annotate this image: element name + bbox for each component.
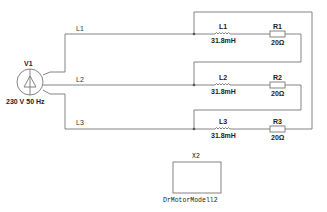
- wire-return-top: [194, 12, 312, 129]
- inductor-l1-icon[interactable]: [215, 33, 230, 35]
- resistor-r3-value: 20Ω: [271, 134, 285, 141]
- wire-l1: [43, 34, 194, 75]
- line-label-l1: L1: [76, 25, 84, 32]
- inductor-l1-name: L1: [219, 23, 227, 30]
- resistor-r1-value: 20Ω: [271, 39, 285, 46]
- junction-dot-l2: [193, 84, 196, 87]
- resistor-r1-icon[interactable]: [270, 31, 285, 37]
- inductor-l2-icon[interactable]: [215, 84, 230, 86]
- inductor-l3-name: L3: [219, 118, 227, 125]
- line-label-l3: L3: [76, 119, 84, 126]
- resistor-r2-name: R2: [273, 74, 282, 81]
- resistor-r2-value: 20Ω: [271, 90, 285, 97]
- component-name-label: X2: [192, 153, 200, 160]
- resistor-r1-name: R1: [273, 23, 282, 30]
- resistor-r3-name: R3: [273, 118, 282, 125]
- junction-dot-l1: [193, 33, 196, 36]
- resistor-r3-icon[interactable]: [270, 126, 285, 132]
- resistor-r2-icon[interactable]: [270, 82, 285, 88]
- wire-l3: [43, 90, 194, 129]
- circuit-canvas: V1 230 V 50 Hz L1 L2 L3 L1 31.8mH R1 20Ω…: [0, 0, 327, 212]
- inductor-l2-value: 31.8mH: [211, 88, 236, 95]
- source-rating-label: 230 V 50 Hz: [6, 98, 45, 105]
- line-label-l2: L2: [76, 76, 84, 83]
- inductor-l3-icon[interactable]: [215, 128, 230, 130]
- junction-dot-l3: [193, 128, 196, 131]
- inductor-l1-value: 31.8mH: [211, 37, 236, 44]
- inductor-l2-name: L2: [219, 74, 227, 81]
- inductor-l3-value: 31.8mH: [211, 132, 236, 139]
- motor-model-box[interactable]: [173, 162, 221, 193]
- component-model-label: DrMotorModell2: [163, 197, 218, 204]
- source-name-label: V1: [24, 60, 33, 67]
